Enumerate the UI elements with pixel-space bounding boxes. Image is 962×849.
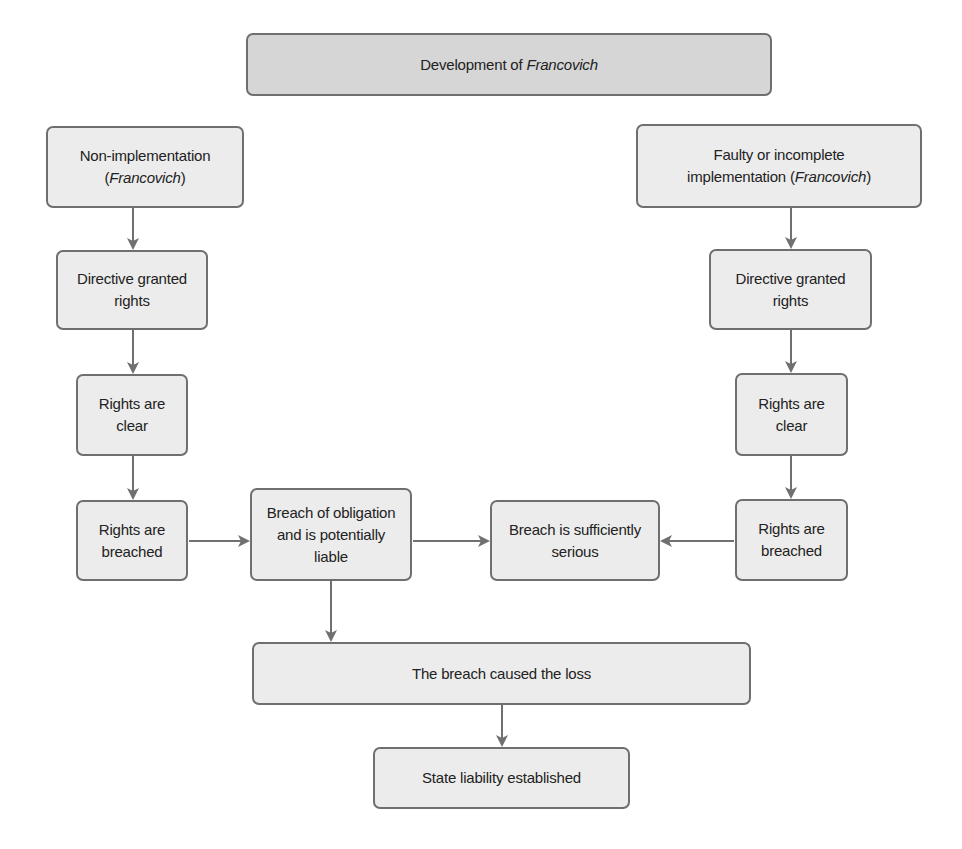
node-faulty-implementation: Faulty or incompleteimplementation (Fran… <box>636 124 922 208</box>
node-breach-caused-loss: The breach caused the loss <box>252 642 751 705</box>
node-right-rights-breached: Rights are breached <box>735 499 848 581</box>
node-left-rights-clear: Rights are clear <box>76 374 188 456</box>
node-breach-sufficiently-serious: Breach is sufficiently serious <box>490 500 660 581</box>
node-right-rights-clear: Rights are clear <box>735 373 848 456</box>
node-breach-of-obligation: Breach of obligation and is potentially … <box>250 488 412 581</box>
node-left-directive-granted-rights: Directive granted rights <box>56 250 208 330</box>
node-non-implementation: Non-implementation(Francovich) <box>46 126 244 208</box>
node-right-directive-granted-rights: Directive granted rights <box>709 249 872 330</box>
node-left-rights-breached: Rights are breached <box>76 500 188 581</box>
diagram-title: Development of Francovich <box>246 33 772 96</box>
title-case-name: Francovich <box>526 56 597 73</box>
node-state-liability-established: State liability established <box>373 747 630 809</box>
